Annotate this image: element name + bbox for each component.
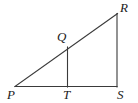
segment-PR-hypotenuse [15,14,118,87]
triangle-segments [15,14,118,88]
vertex-label-Q: Q [57,30,66,43]
vertex-label-S: S [117,88,124,101]
vertex-label-T: T [63,88,70,101]
vertex-label-P: P [7,88,15,101]
geometry-figure: P T S R Q [0,0,138,103]
vertex-label-R: R [120,1,128,14]
